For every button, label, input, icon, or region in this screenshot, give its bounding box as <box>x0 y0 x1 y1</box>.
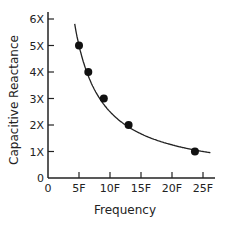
data-point <box>191 148 199 156</box>
data-point <box>100 95 108 103</box>
y-tick-label: 1X <box>29 146 44 159</box>
y-tick-label: 5X <box>29 40 44 53</box>
x-tick-label: 15F <box>131 182 151 195</box>
x-tick-label: 25F <box>193 182 213 195</box>
y-tick-label: 6X <box>29 13 44 26</box>
x-axis-label: Frequency <box>94 203 156 217</box>
x-axis: 05F10F15F20F25F <box>45 172 216 195</box>
y-tick-label: 4X <box>29 66 44 79</box>
reactance-curve <box>75 24 211 153</box>
x-tick-label: 10F <box>100 182 120 195</box>
data-point <box>75 42 83 50</box>
y-tick-label: 3X <box>29 93 44 106</box>
chart: 01X2X3X4X5X6X 05F10F15F20F25F Frequency … <box>0 0 227 227</box>
data-point <box>84 68 92 76</box>
y-tick-label: 2X <box>29 119 44 132</box>
x-tick-label: 5F <box>72 182 85 195</box>
y-tick-label: 0 <box>37 172 44 185</box>
y-axis-label: Capacitive Reactance <box>7 35 21 165</box>
x-tick-label: 0 <box>45 182 52 195</box>
data-point <box>125 121 133 129</box>
y-axis: 01X2X3X4X5X6X <box>29 12 54 185</box>
x-tick-label: 20F <box>162 182 182 195</box>
data-points <box>75 42 199 156</box>
